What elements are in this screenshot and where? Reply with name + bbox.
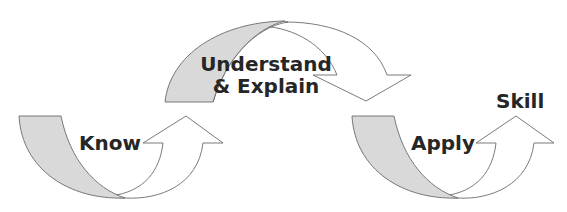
know-arrow xyxy=(19,116,223,198)
apply-label: Apply xyxy=(411,132,475,154)
skill-label: Skill xyxy=(496,90,544,112)
understand-explain-label: Understand & Explain xyxy=(196,53,336,97)
understand-label-line2: & Explain xyxy=(196,75,336,97)
apply-arrow-body-icon xyxy=(443,116,554,198)
understand-label-line1: Understand xyxy=(196,53,336,75)
know-arrow-body-icon xyxy=(110,116,223,198)
apply-arrow xyxy=(352,116,554,198)
know-arrow-shade-icon xyxy=(19,116,125,198)
flow-diagram xyxy=(0,0,567,212)
apply-arrow-shade-icon xyxy=(352,116,458,198)
know-label: Know xyxy=(79,132,141,154)
